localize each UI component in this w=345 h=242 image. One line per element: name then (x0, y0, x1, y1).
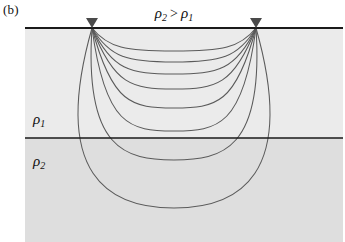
title-rho-1-subscript: 1 (188, 12, 193, 23)
upper-layer-rho-subscript: 1 (40, 118, 45, 129)
lower-layer-rho-subscript: 2 (40, 160, 45, 171)
resistivity-diagram: ρ2>ρ1 ρ1 ρ2 (0, 0, 345, 242)
upper-layer-region (25, 28, 343, 138)
title-label: ρ2>ρ1 (154, 5, 193, 23)
title-operator: > (170, 6, 178, 21)
upper-layer-rho-symbol: ρ (32, 111, 40, 127)
right-current-electrode-icon[interactable] (250, 18, 262, 28)
title-rho-2-subscript: 2 (162, 12, 167, 23)
lower-layer-region (25, 138, 343, 242)
figure-panel: (b) ρ2>ρ1 ρ1 (0, 0, 345, 242)
left-current-electrode-icon[interactable] (86, 18, 98, 28)
lower-layer-rho-symbol: ρ (32, 153, 40, 169)
title-rho-1-symbol: ρ (180, 5, 188, 21)
title-rho-2-symbol: ρ (154, 5, 162, 21)
